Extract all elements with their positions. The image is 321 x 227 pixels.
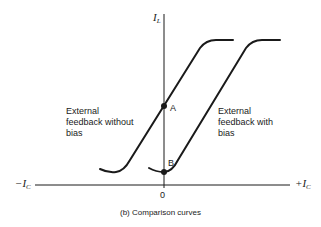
curve-without-bias-label: External feedback without bias bbox=[66, 106, 134, 139]
point-a-label: A bbox=[170, 103, 176, 114]
y-axis-label: IL bbox=[153, 12, 161, 27]
point-b-marker bbox=[161, 169, 167, 175]
point-b-label: B bbox=[168, 158, 174, 169]
diagram-canvas: IL −IC +IC 0 A B External feedback witho… bbox=[0, 0, 321, 227]
figure-caption: (b) Comparison curves bbox=[120, 207, 201, 218]
origin-label: 0 bbox=[160, 190, 165, 201]
x-axis-positive-label: +IC bbox=[295, 178, 311, 193]
point-a-marker bbox=[161, 103, 167, 109]
curve-with-bias-label: External feedback with bias bbox=[218, 106, 273, 139]
x-axis-negative-label: −IC bbox=[15, 178, 31, 193]
